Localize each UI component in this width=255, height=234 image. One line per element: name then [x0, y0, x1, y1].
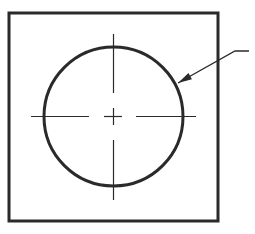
engineering-drawing	[0, 0, 255, 234]
